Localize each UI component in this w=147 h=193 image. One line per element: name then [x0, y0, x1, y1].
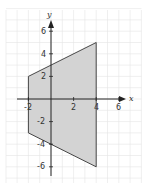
y-tick-label: 2 [41, 72, 46, 81]
y-tick-label: -2 [37, 117, 45, 126]
y-axis-label: y [46, 10, 52, 19]
x-axis-label: x [129, 94, 134, 103]
y-tick-label: 4 [41, 50, 46, 59]
coordinate-plane: x y -2 2 4 6 6 4 2 -2 -4 -6 [0, 0, 147, 193]
y-axis-arrow-icon [48, 20, 54, 28]
x-tick-label: -2 [24, 103, 32, 112]
y-tick-label: 6 [41, 27, 46, 36]
x-tick-label: 6 [116, 103, 121, 112]
y-tick-label: -6 [37, 162, 45, 171]
x-tick-label: 2 [71, 103, 76, 112]
y-tick-label: -4 [37, 140, 45, 149]
x-axis-arrow-icon [119, 96, 126, 102]
x-tick-label: 4 [94, 103, 99, 112]
